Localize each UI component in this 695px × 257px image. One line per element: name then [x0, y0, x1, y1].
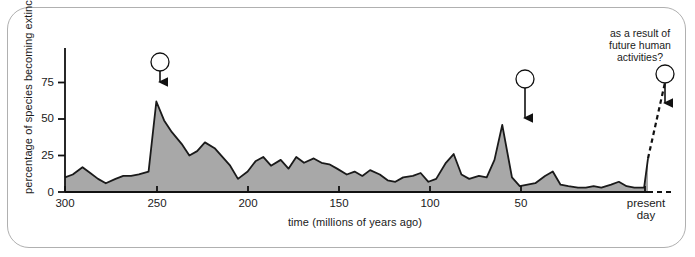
future-projection-dashed-line — [648, 83, 665, 159]
callout-2-circle — [516, 70, 534, 88]
figure-container: percentage of species becoming extinct t… — [0, 0, 695, 257]
extinction-area-chart — [0, 0, 695, 257]
area-fill — [65, 101, 648, 192]
callout-1-circle — [151, 53, 169, 71]
callout-3-circle — [656, 65, 674, 83]
